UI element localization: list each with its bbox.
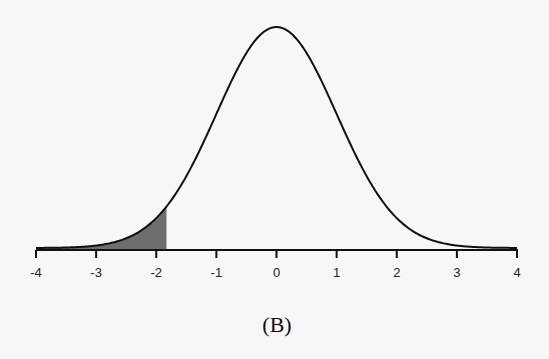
x-tick-label: -3 <box>90 265 102 280</box>
figure-caption: (B) <box>262 312 291 337</box>
x-tick-label: 1 <box>333 265 340 280</box>
x-tick-label: 4 <box>513 265 520 280</box>
shaded-left-tail <box>36 207 166 250</box>
x-tick-label: 2 <box>393 265 400 280</box>
x-axis-ticks: -4-3-2-101234 <box>30 250 520 280</box>
density-curve <box>36 27 517 248</box>
x-tick-label: -4 <box>30 265 42 280</box>
x-tick-label: -2 <box>150 265 162 280</box>
x-tick-label: 3 <box>453 265 460 280</box>
normal-distribution-chart: -4-3-2-101234 (B) <box>0 0 549 359</box>
x-tick-label: -1 <box>211 265 223 280</box>
x-tick-label: 0 <box>273 265 280 280</box>
